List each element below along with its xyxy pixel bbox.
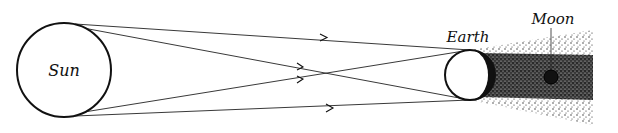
- ray-top-cross: [78, 27, 470, 100]
- ray-top-straight: [75, 24, 470, 50]
- moon-circle: [544, 70, 558, 84]
- earth-label: Earth: [446, 28, 490, 46]
- umbra-region: [480, 53, 593, 100]
- sun-label: Sun: [48, 61, 80, 80]
- ray-bottom-straight: [75, 100, 470, 116]
- ray-bottom-cross: [78, 50, 470, 113]
- lunar-eclipse-diagram: Sun Earth Moon: [0, 0, 618, 133]
- moon-label: Moon: [530, 10, 574, 28]
- light-rays: [75, 24, 470, 116]
